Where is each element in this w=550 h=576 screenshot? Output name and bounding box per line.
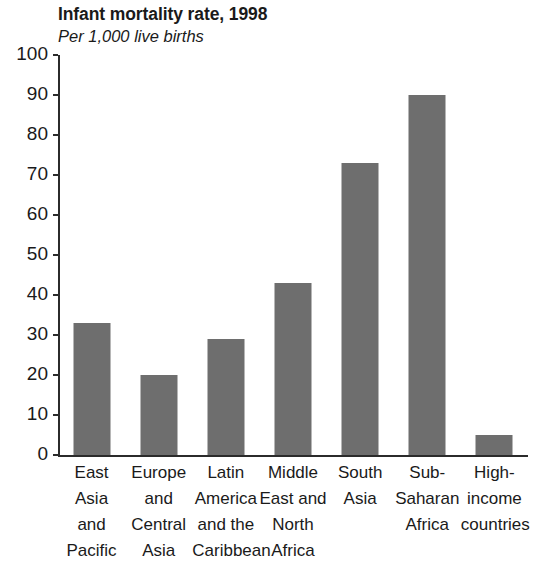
x-axis-category-label-line: Africa: [394, 512, 461, 538]
bar[interactable]: [140, 375, 177, 455]
x-axis-category-label-line: and: [125, 486, 192, 512]
x-axis-category-label-line: America: [192, 486, 259, 512]
bar-slot: [192, 55, 259, 455]
chart-subtitle: Per 1,000 live births: [58, 26, 538, 46]
y-axis-tick-label: 90: [27, 83, 48, 105]
bar[interactable]: [207, 339, 244, 455]
y-axis-tick-label: 50: [27, 243, 48, 265]
x-axis-category-labels: EastAsiaandPacificEuropeandCentralAsiaLa…: [58, 460, 538, 572]
x-axis-category-label: EastAsiaandPacific: [58, 460, 125, 564]
chart-title: Infant mortality rate, 1998: [58, 4, 538, 25]
x-axis-category-label-line: Africa: [259, 538, 326, 564]
bar-slot: [58, 55, 125, 455]
bar-slot: [259, 55, 326, 455]
x-axis-category-label: LatinAmericaand theCaribbean: [192, 460, 259, 564]
bar[interactable]: [409, 95, 446, 455]
x-axis-category-label: Sub-SaharanAfrica: [394, 460, 461, 538]
y-axis-tick-label: 30: [27, 323, 48, 345]
x-axis-category-label-line: countries: [461, 512, 528, 538]
y-axis-tick-label: 10: [27, 403, 48, 425]
x-axis-category-label-line: and: [58, 512, 125, 538]
infant-mortality-bar-chart: Infant mortality rate, 1998 Per 1,000 li…: [0, 0, 550, 576]
x-axis-category-label-line: Europe: [125, 460, 192, 486]
bar[interactable]: [342, 163, 379, 455]
x-axis-category-label-line: Asia: [58, 486, 125, 512]
plot-area: 0102030405060708090100: [58, 55, 528, 455]
x-axis-category-label-line: Asia: [327, 486, 394, 512]
bar-series: [58, 55, 528, 455]
bar[interactable]: [476, 435, 513, 455]
x-axis-category-label: MiddleEast andNorthAfrica: [259, 460, 326, 564]
y-axis-tick-label: 80: [27, 123, 48, 145]
x-axis-category-label-line: North: [259, 512, 326, 538]
x-axis-category-label-line: Middle: [259, 460, 326, 486]
x-axis-category-label-line: Caribbean: [192, 538, 259, 564]
y-axis-tick-label: 20: [27, 363, 48, 385]
chart-title-block: Infant mortality rate, 1998 Per 1,000 li…: [58, 4, 538, 46]
x-axis-category-label-line: and the: [192, 512, 259, 538]
x-axis-category-label: High-incomecountries: [461, 460, 528, 538]
x-axis-category-label-line: Saharan: [394, 486, 461, 512]
x-axis-category-label-line: South: [327, 460, 394, 486]
x-axis-line: [58, 455, 528, 457]
x-axis-category-label-line: Central: [125, 512, 192, 538]
x-axis-category-label-line: High-: [461, 460, 528, 486]
x-axis-category-label: SouthAsia: [327, 460, 394, 512]
x-axis-category-label: EuropeandCentralAsia: [125, 460, 192, 564]
bar-slot: [394, 55, 461, 455]
bar-slot: [327, 55, 394, 455]
y-axis-tick-label: 40: [27, 283, 48, 305]
x-axis-category-label-line: income: [461, 486, 528, 512]
x-axis-category-label-line: Pacific: [58, 538, 125, 564]
bar-slot: [125, 55, 192, 455]
y-axis-tick-label: 0: [37, 443, 48, 465]
bar-slot: [461, 55, 528, 455]
x-axis-category-label-line: Sub-: [394, 460, 461, 486]
y-axis-tick-label: 60: [27, 203, 48, 225]
x-axis-category-label-line: Asia: [125, 538, 192, 564]
x-axis-category-label-line: East and: [259, 486, 326, 512]
y-axis-tick-label: 100: [16, 43, 48, 65]
x-axis-category-label-line: Latin: [192, 460, 259, 486]
bar[interactable]: [73, 323, 110, 455]
bar[interactable]: [274, 283, 311, 455]
y-axis-tick-label: 70: [27, 163, 48, 185]
x-axis-category-label-line: East: [58, 460, 125, 486]
